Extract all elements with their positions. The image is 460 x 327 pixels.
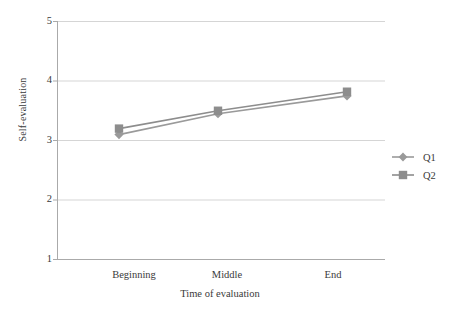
legend-marker-diamond-icon (391, 150, 415, 164)
series-q1-line (119, 96, 347, 135)
legend-item-q2[interactable]: Q2 (391, 166, 457, 184)
legend-label-q1: Q1 (423, 152, 436, 163)
series-q2-marker-beginning (115, 124, 123, 132)
x-tick-label-middle: Middle (212, 269, 242, 280)
legend-marker-square-icon (391, 168, 415, 182)
y-tick-label-2: 2 (34, 193, 52, 204)
y-tick-label-3: 3 (34, 134, 52, 145)
chart-figure: Self-evaluation 5 4 3 2 1 Beginning Midd… (0, 0, 460, 327)
series-q2-marker-middle (214, 107, 222, 115)
chart-legend: Q1 Q2 (391, 148, 457, 184)
y-tick-label-5: 5 (34, 15, 52, 26)
legend-label-q2: Q2 (423, 170, 436, 181)
series-q2-marker-end (343, 88, 351, 96)
legend-item-q1[interactable]: Q1 (391, 148, 457, 166)
series-q1 (114, 91, 351, 139)
y-axis-ticks (53, 22, 57, 260)
series-q2 (115, 88, 351, 133)
x-tick-label-beginning: Beginning (112, 269, 156, 280)
y-axis-title: Self-evaluation (17, 40, 28, 180)
x-tick-label-end: End (325, 269, 342, 280)
x-axis-title: Time of evaluation (0, 288, 440, 299)
y-tick-label-1: 1 (34, 253, 52, 264)
y-tick-label-4: 4 (34, 74, 52, 85)
series-q2-line (119, 92, 347, 129)
